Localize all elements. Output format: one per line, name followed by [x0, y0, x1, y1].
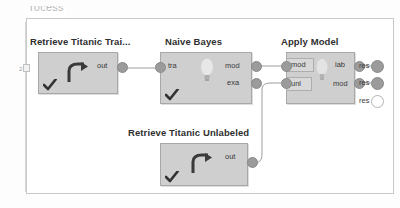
bulb-icon — [199, 58, 215, 84]
input-port-tra[interactable] — [155, 62, 166, 73]
output-port-out-training[interactable] — [117, 62, 128, 73]
port-label-tra: tra — [168, 62, 177, 70]
result-port-label-3: res — [359, 97, 369, 105]
retrieve-arrow-icon — [189, 153, 215, 175]
port-label-mod-naivebayes: mod — [225, 62, 240, 70]
retrieve-arrow-icon — [65, 62, 91, 84]
port-label-unl: unl — [291, 80, 301, 88]
check-icon — [165, 89, 179, 101]
canvas-left-ruler-tick: 2 — [19, 66, 22, 72]
process-group-title-text: rocess — [30, 6, 64, 13]
port-label-out-unlabeled: out — [225, 153, 235, 161]
node-apply-model[interactable]: mod unl lab mod — [286, 52, 355, 104]
port-label-exa: exa — [227, 79, 239, 87]
result-port-1[interactable] — [371, 60, 384, 73]
input-port-unl[interactable] — [281, 78, 292, 89]
process-editor-screenshot: rocess 2 Retrieve Titanic Trai... out — [0, 0, 400, 208]
node-title-naive-bayes: Naive Bayes — [165, 36, 222, 47]
node-title-apply-model: Apply Model — [281, 36, 339, 47]
node-naive-bayes[interactable]: tra mod exa — [160, 52, 252, 104]
output-port-out-unlabeled[interactable] — [247, 157, 258, 168]
port-label-lab: lab — [335, 61, 345, 69]
canvas-left-rail — [25, 22, 26, 192]
check-icon — [165, 171, 179, 183]
check-icon — [43, 79, 57, 91]
port-label-mod-applymodel-in: mod — [291, 61, 306, 69]
node-retrieve-titanic-unlabeled[interactable]: out — [160, 143, 248, 186]
result-port-3[interactable] — [371, 95, 384, 108]
bulb-icon — [315, 59, 329, 83]
node-title-retrieve-titanic-unlabeled: Retrieve Titanic Unlabeled — [128, 127, 249, 138]
result-port-2[interactable] — [371, 77, 384, 90]
output-port-exa[interactable] — [251, 78, 262, 89]
input-port-mod-applymodel[interactable] — [281, 61, 292, 72]
port-label-mod-applymodel-out: mod — [333, 80, 348, 88]
result-port-label-2: res — [359, 79, 369, 87]
port-label-out-training: out — [97, 62, 107, 70]
result-port-label-1: res — [359, 62, 369, 70]
node-retrieve-titanic-training[interactable]: out — [38, 52, 118, 94]
canvas-left-port-marker[interactable] — [23, 64, 30, 72]
output-port-mod-naivebayes[interactable] — [251, 61, 262, 72]
process-group-title: rocess — [28, 6, 66, 17]
node-title-retrieve-titanic-training: Retrieve Titanic Trai... — [30, 36, 130, 47]
